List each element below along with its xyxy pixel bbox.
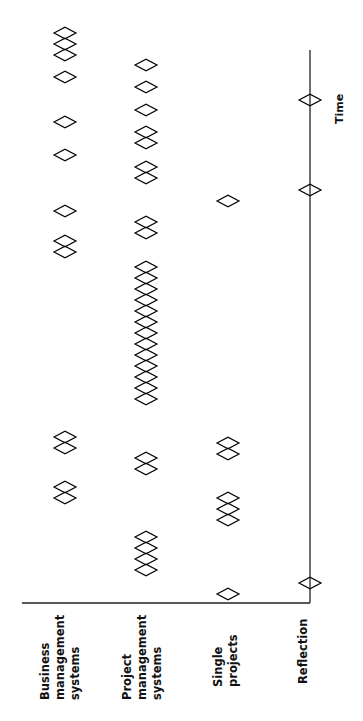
event-diamond-icon xyxy=(135,553,157,565)
event-diamond-icon xyxy=(54,71,76,83)
row-label-business: Business management systems xyxy=(38,615,83,700)
event-diamond-icon xyxy=(135,327,157,339)
event-diamond-icon xyxy=(54,246,76,258)
event-diamond-icon xyxy=(135,172,157,184)
event-diamond-icon xyxy=(217,503,239,515)
event-diamond-icon xyxy=(54,431,76,443)
event-diamond-icon xyxy=(135,104,157,116)
event-diamond-icon xyxy=(135,463,157,475)
event-diamond-icon xyxy=(135,371,157,383)
event-diamond-icon xyxy=(135,261,157,273)
event-diamond-icon xyxy=(135,227,157,239)
event-diamond-icon xyxy=(54,492,76,504)
event-diamond-icon xyxy=(54,235,76,247)
event-diamond-icon xyxy=(135,338,157,350)
event-diamond-icon xyxy=(217,514,239,526)
event-diamond-icon xyxy=(135,382,157,394)
event-diamond-icon xyxy=(217,448,239,460)
event-diamond-icon xyxy=(135,349,157,361)
event-diamond-icon xyxy=(135,564,157,576)
event-diamond-icon xyxy=(135,393,157,405)
diagram-canvas xyxy=(0,0,363,721)
event-diamond-icon xyxy=(217,492,239,504)
event-diamond-icon xyxy=(217,588,239,600)
timeline-diagram: Business management systems Project mana… xyxy=(0,0,363,721)
event-diamond-icon xyxy=(135,360,157,372)
row-label-project: Project management systems xyxy=(120,615,165,700)
event-diamond-icon xyxy=(135,542,157,554)
axis-label-time: Time xyxy=(332,94,347,124)
event-diamond-icon xyxy=(54,38,76,50)
event-diamond-icon xyxy=(135,294,157,306)
event-diamond-icon xyxy=(135,452,157,464)
event-diamond-icon xyxy=(217,195,239,207)
row-label-reflection: Reflection xyxy=(296,619,311,684)
event-diamond-icon xyxy=(54,442,76,454)
event-diamond-icon xyxy=(135,161,157,173)
event-markers xyxy=(54,27,321,600)
event-diamond-icon xyxy=(135,137,157,149)
event-diamond-icon xyxy=(54,205,76,217)
event-diamond-icon xyxy=(135,81,157,93)
row-label-single: Single projects xyxy=(211,634,241,687)
event-diamond-icon xyxy=(54,116,76,128)
event-diamond-icon xyxy=(54,49,76,61)
event-diamond-icon xyxy=(135,272,157,284)
event-diamond-icon xyxy=(54,149,76,161)
event-diamond-icon xyxy=(135,316,157,328)
event-diamond-icon xyxy=(135,283,157,295)
event-diamond-icon xyxy=(217,437,239,449)
event-diamond-icon xyxy=(54,481,76,493)
event-diamond-icon xyxy=(135,531,157,543)
event-diamond-icon xyxy=(135,126,157,138)
event-diamond-icon xyxy=(135,216,157,228)
event-diamond-icon xyxy=(135,59,157,71)
event-diamond-icon xyxy=(54,27,76,39)
event-diamond-icon xyxy=(135,305,157,317)
